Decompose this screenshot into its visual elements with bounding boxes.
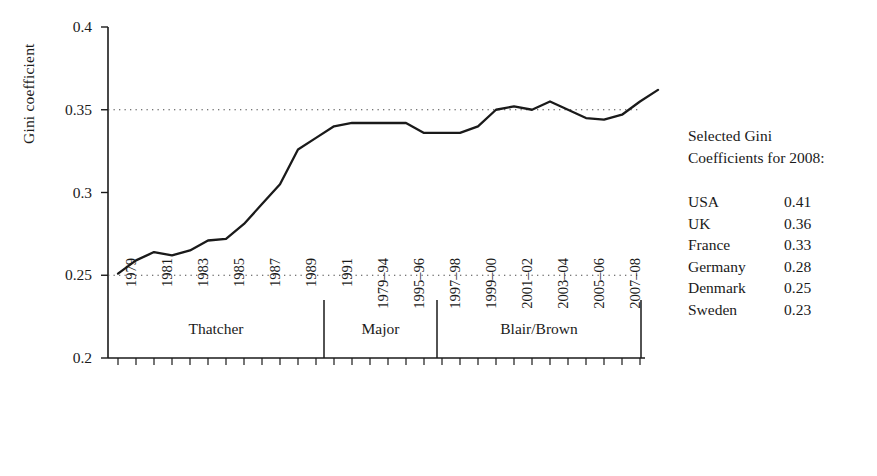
- y-axis-tick-label: 0.2: [44, 350, 92, 366]
- country-name: USA: [688, 191, 784, 213]
- country-name: UK: [688, 213, 784, 235]
- table-row: Germany0.28: [688, 256, 868, 278]
- table-row: France0.33: [688, 234, 868, 256]
- country-name: Denmark: [688, 277, 784, 299]
- table-row: Denmark0.25: [688, 277, 868, 299]
- country-name: France: [688, 234, 784, 256]
- gini-series-line: [118, 90, 658, 274]
- era-label-thatcher: Thatcher: [108, 320, 324, 338]
- gini-value: 0.25: [784, 277, 844, 299]
- x-axis-tick-label: 1983: [196, 258, 210, 368]
- country-name: Sweden: [688, 299, 784, 321]
- selected-gini-table-rows: USA0.41UK0.36France0.33Germany0.28Denmar…: [688, 191, 868, 320]
- gini-coefficient-figure: Gini coefficient 0.20.250.30.350.4 19791…: [0, 0, 877, 476]
- gini-value: 0.41: [784, 191, 844, 213]
- table-row: USA0.41: [688, 191, 868, 213]
- y-axis-tick-label: 0.3: [44, 185, 92, 201]
- x-axis-tick-label: 2003–04: [556, 258, 570, 368]
- selected-gini-table-title: Selected Gini Coefficients for 2008:: [688, 125, 868, 169]
- x-axis-tick-label: 2005–06: [592, 258, 606, 368]
- gini-value: 0.28: [784, 256, 844, 278]
- era-label-major: Major: [324, 320, 437, 338]
- era-label-blair-brown: Blair/Brown: [437, 320, 641, 338]
- chart-panel: Gini coefficient 0.20.250.30.350.4 19791…: [0, 0, 660, 476]
- x-axis-tick-label: 1981: [160, 258, 174, 368]
- x-axis-tick-label: 1999–00: [484, 258, 498, 368]
- x-axis-tick-label: 1995–96: [412, 258, 426, 368]
- gini-value: 0.33: [784, 234, 844, 256]
- gini-value: 0.36: [784, 213, 844, 235]
- x-axis-tick-label: 1979–94: [376, 258, 390, 368]
- y-axis-title: Gini coefficient: [20, 0, 44, 144]
- gini-value: 0.23: [784, 299, 844, 321]
- x-axis-tick-label: 2001–02: [520, 258, 534, 368]
- y-axis-tick-label: 0.25: [44, 267, 92, 283]
- y-axis-tick-label: 0.4: [44, 19, 92, 35]
- x-axis-tick-label: 1997–98: [448, 258, 462, 368]
- x-axis-tick-label: 1987: [268, 258, 282, 368]
- x-axis-tick-label: 1991: [340, 258, 354, 368]
- x-axis-tick-label: 1985: [232, 258, 246, 368]
- y-axis-tick-label: 0.35: [44, 102, 92, 118]
- x-axis-tick-label: 1979: [124, 258, 138, 368]
- line-chart-plot: [0, 0, 660, 476]
- country-name: Germany: [688, 256, 784, 278]
- x-axis-tick-label: 2007–08: [628, 258, 642, 368]
- x-axis-tick-label: 1989: [304, 258, 318, 368]
- table-row: UK0.36: [688, 213, 868, 235]
- selected-gini-table: Selected Gini Coefficients for 2008: USA…: [688, 125, 868, 320]
- y-axis-ticks: [101, 27, 108, 358]
- table-row: Sweden0.23: [688, 299, 868, 321]
